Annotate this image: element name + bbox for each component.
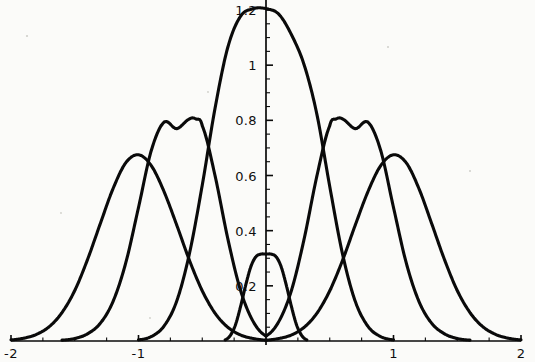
curve-1 bbox=[11, 155, 266, 340]
x-tick-label: 2 bbox=[517, 346, 526, 361]
curve-4 bbox=[266, 118, 470, 340]
y-tick-label: 1.2 bbox=[235, 3, 257, 18]
y-tick-label: 0.2 bbox=[235, 279, 257, 294]
y-tick-label: 0.6 bbox=[235, 169, 257, 184]
curve-5 bbox=[266, 155, 521, 340]
axes bbox=[11, 0, 521, 345]
plot-canvas: 0.20.40.60.811.2-2-112 bbox=[0, 0, 535, 362]
x-tick-label: 1 bbox=[389, 346, 398, 361]
plot-figure: 0.20.40.60.811.2-2-112 bbox=[0, 0, 535, 362]
x-tick-label: -2 bbox=[4, 346, 18, 361]
x-tick-label: -1 bbox=[132, 346, 146, 361]
y-tick-label: 0.4 bbox=[235, 224, 257, 239]
y-tick-label: 0.8 bbox=[235, 113, 257, 128]
y-tick-label: 1 bbox=[248, 58, 257, 73]
tick-labels: 0.20.40.60.811.2-2-112 bbox=[4, 3, 525, 361]
